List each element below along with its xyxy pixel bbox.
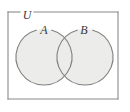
set-a-label: A	[39, 23, 48, 37]
venn-diagram-figure: U A B	[0, 0, 130, 112]
venn-diagram-canvas: U A B	[0, 0, 130, 112]
universe-label: U	[23, 8, 33, 22]
set-b-label: B	[80, 23, 88, 37]
